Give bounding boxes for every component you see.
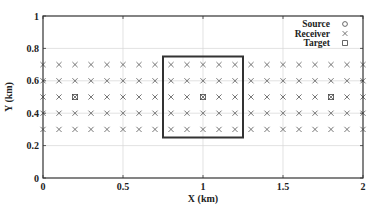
receiver-point xyxy=(72,127,77,132)
legend-label-target: Target xyxy=(303,38,330,48)
y-tick-label: 0.4 xyxy=(27,108,40,119)
legend-circle-icon xyxy=(343,22,348,27)
receiver-point xyxy=(296,94,301,99)
receiver-point xyxy=(296,62,301,67)
receiver-point xyxy=(264,127,269,132)
receiver-point xyxy=(56,94,61,99)
receiver-point xyxy=(72,62,77,67)
receiver-point xyxy=(56,127,61,132)
receiver-point xyxy=(88,94,93,99)
receiver-point xyxy=(104,127,109,132)
receiver-point xyxy=(88,62,93,67)
y-tick-label: 0.2 xyxy=(27,140,40,151)
receiver-point xyxy=(232,127,237,132)
y-tick-label: 0.6 xyxy=(27,75,40,86)
legend: SourceReceiverTarget xyxy=(295,19,348,48)
receiver-point xyxy=(104,62,109,67)
receiver-point xyxy=(136,94,141,99)
x-tick-label: 2 xyxy=(361,181,366,192)
receiver-point xyxy=(328,94,333,99)
receiver-point xyxy=(56,62,61,67)
receiver-point xyxy=(312,94,317,99)
x-tick-label: 1.5 xyxy=(277,181,290,192)
receiver-point xyxy=(328,62,333,67)
receiver-point xyxy=(216,127,221,132)
y-tick-label: 0.8 xyxy=(27,43,40,54)
receiver-point xyxy=(312,127,317,132)
legend-square-icon xyxy=(343,41,348,46)
receiver-point xyxy=(344,94,349,99)
receiver-point xyxy=(344,62,349,67)
receiver-point xyxy=(168,62,173,67)
receiver-point xyxy=(152,127,157,132)
receiver-point xyxy=(216,94,221,99)
x-tick-label: 1 xyxy=(201,181,206,192)
receiver-point xyxy=(136,62,141,67)
legend-label-receiver: Receiver xyxy=(295,29,331,39)
receiver-point xyxy=(216,62,221,67)
receiver-point xyxy=(152,94,157,99)
chart: 00.511.5200.20.40.60.81 X (km) Y (km) So… xyxy=(0,0,374,212)
legend-label-source: Source xyxy=(302,19,330,29)
receiver-point xyxy=(88,127,93,132)
legend-cross-icon xyxy=(343,31,348,36)
receiver-point xyxy=(328,127,333,132)
y-tick-label: 0 xyxy=(34,173,39,184)
receiver-point xyxy=(184,94,189,99)
x-tick-label: 0.5 xyxy=(117,181,130,192)
receiver-point xyxy=(264,94,269,99)
receiver-point xyxy=(184,127,189,132)
receiver-point xyxy=(232,62,237,67)
receiver-point xyxy=(248,62,253,67)
receiver-point xyxy=(168,94,173,99)
receiver-point xyxy=(232,94,237,99)
receiver-point xyxy=(184,62,189,67)
receiver-point xyxy=(344,127,349,132)
receiver-point xyxy=(312,62,317,67)
receiver-point xyxy=(104,94,109,99)
receiver-point xyxy=(264,62,269,67)
receiver-point xyxy=(136,127,141,132)
y-tick-label: 1 xyxy=(34,11,39,22)
x-axis-label: X (km) xyxy=(188,193,218,205)
receiver-point xyxy=(296,127,301,132)
receiver-point xyxy=(168,127,173,132)
receiver-point xyxy=(72,94,77,99)
receiver-point xyxy=(248,127,253,132)
receiver-point xyxy=(248,94,253,99)
x-tick-label: 0 xyxy=(41,181,46,192)
receiver-point xyxy=(152,62,157,67)
y-axis-label: Y (km) xyxy=(3,82,15,112)
